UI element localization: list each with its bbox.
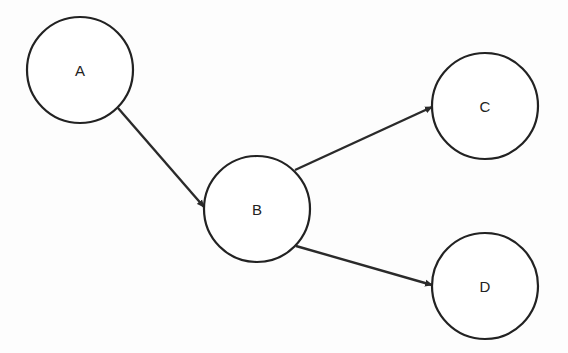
graph-svg: ABCD [0,0,568,353]
node-a: A [27,17,133,123]
edge-b-to-d-arrow [296,246,432,285]
node-d: D [432,233,538,339]
node-label: C [480,98,491,115]
node-label: B [252,201,262,218]
node-label: D [480,278,491,295]
edge-b-to-c-arrow [295,107,432,170]
node-b: B [204,156,310,262]
edge-a-to-b-arrow [118,108,204,207]
diagram-canvas: ABCD [0,0,568,353]
node-c: C [432,53,538,159]
nodes-group: ABCD [27,17,538,339]
node-label: A [75,62,85,79]
